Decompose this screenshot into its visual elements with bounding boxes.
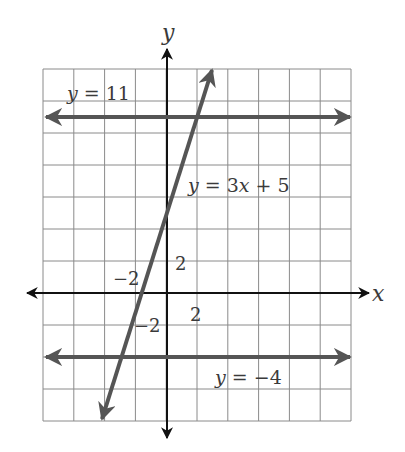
tick-label-x-2: 2 [190,304,201,325]
equation-label-3x-plus-5: y = 3x + 5 [187,174,290,196]
tick-label-y-2: 2 [175,253,186,274]
equation-label-y-neg4: y = −4 [214,366,282,388]
tick-label-x-neg2: −2 [113,268,140,289]
y-axis-label: y [161,20,175,45]
tick-label-y-neg2: −2 [134,315,161,336]
line-y-equals-3x-plus-5 [102,70,212,419]
x-axis-label: x [372,281,385,306]
graph: y x −2 2 2 −2 y = 11 y = 3x + 5 y = −4 [0,0,405,452]
equation-label-y-11: y = 11 [66,82,130,104]
